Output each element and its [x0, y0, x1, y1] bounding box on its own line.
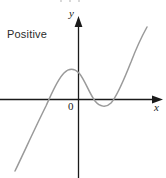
origin-tick-label: 0 — [68, 100, 74, 112]
figure-container: Positive y x 0 — [0, 0, 166, 178]
x-axis-label: x — [154, 101, 159, 113]
y-axis-label: y — [69, 7, 74, 19]
positive-annotation-label: Positive — [7, 28, 47, 40]
y-axis-arrowhead — [75, 16, 83, 27]
cubic-function-plot — [0, 0, 166, 178]
